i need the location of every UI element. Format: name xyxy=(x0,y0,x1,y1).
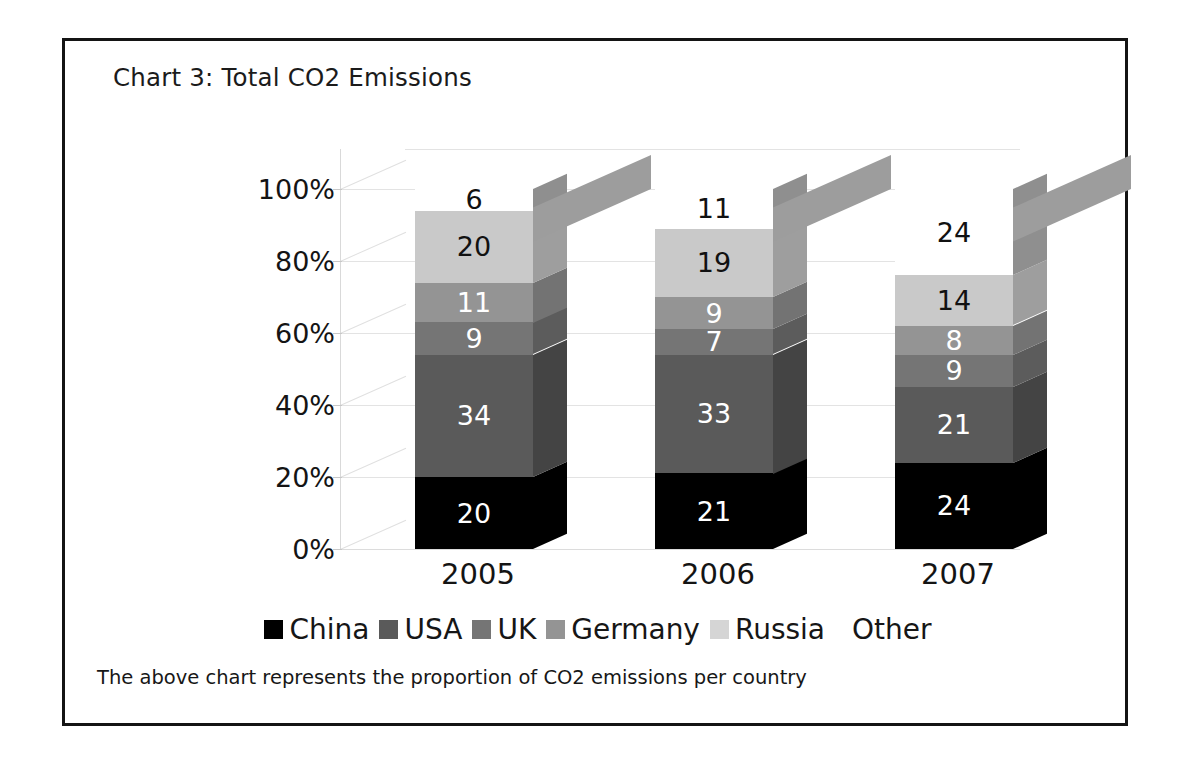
segment-value-label: 11 xyxy=(457,289,491,316)
segment-front-face: 6 xyxy=(415,189,533,211)
segment-front-face: 11 xyxy=(655,189,773,229)
segment-side-face xyxy=(773,329,807,354)
legend-label: USA xyxy=(404,613,462,646)
legend-item-russia[interactable]: Russia xyxy=(710,613,825,646)
segment-2005-china[interactable]: 20 xyxy=(415,477,533,549)
segment-value-label: 20 xyxy=(457,500,491,527)
x-axis-label-2007: 2007 xyxy=(863,557,1053,591)
segment-2007-usa[interactable]: 21 xyxy=(895,387,1013,463)
segment-front-face: 21 xyxy=(895,387,1013,463)
segment-2007-uk[interactable]: 9 xyxy=(895,355,1013,387)
segment-value-label: 8 xyxy=(945,327,962,354)
segment-2006-other[interactable]: 11 xyxy=(655,189,773,229)
segment-value-label: 24 xyxy=(937,492,971,519)
legend-label: UK xyxy=(497,613,536,646)
legend-item-germany[interactable]: Germany xyxy=(546,613,700,646)
segment-value-label: 21 xyxy=(937,411,971,438)
segment-2006-uk[interactable]: 7 xyxy=(655,329,773,354)
legend-item-china[interactable]: China xyxy=(264,613,369,646)
segment-front-face: 20 xyxy=(415,477,533,549)
legend-swatch-germany-icon xyxy=(546,620,565,639)
segment-side-fill xyxy=(773,339,807,473)
segment-side-face xyxy=(773,297,807,329)
segment-value-label: 7 xyxy=(705,328,722,355)
legend-swatch-china-icon xyxy=(264,620,283,639)
y-tickmark-60 xyxy=(333,333,342,334)
segment-front-face: 14 xyxy=(895,275,1013,325)
segment-front-face: 9 xyxy=(895,355,1013,387)
segment-side-fill xyxy=(533,339,567,477)
segment-side-fill xyxy=(1013,447,1047,549)
screenshot-page: Chart 3: Total CO2 Emissions 0%20%40%60%… xyxy=(0,0,1188,764)
segment-2006-china[interactable]: 21 xyxy=(655,473,773,549)
segment-2007-other[interactable]: 24 xyxy=(895,189,1013,275)
segment-side-face xyxy=(533,477,567,549)
column-top-cap-2005 xyxy=(533,155,567,189)
y-tickmark-20 xyxy=(333,477,342,478)
segment-value-label: 9 xyxy=(705,300,722,327)
segment-front-face: 11 xyxy=(415,283,533,323)
segment-front-face: 7 xyxy=(655,329,773,354)
segment-2005-uk[interactable]: 9 xyxy=(415,322,533,354)
segment-value-label: 11 xyxy=(697,195,731,222)
segment-side-face xyxy=(533,355,567,477)
chart-frame: Chart 3: Total CO2 Emissions 0%20%40%60%… xyxy=(62,38,1128,726)
segment-2005-other[interactable]: 6 xyxy=(415,189,533,211)
segment-front-face: 20 xyxy=(415,211,533,283)
y-axis-label-20: 20% xyxy=(227,462,335,493)
column-top-cap-fill xyxy=(1013,155,1131,242)
segment-front-face: 33 xyxy=(655,355,773,474)
segment-front-face: 34 xyxy=(415,355,533,477)
legend-label: China xyxy=(289,613,369,646)
legend-item-uk[interactable]: UK xyxy=(472,613,536,646)
legend-swatch-other-icon xyxy=(835,620,846,639)
segment-side-face xyxy=(1013,463,1047,549)
segment-side-face xyxy=(1013,326,1047,355)
legend-swatch-usa-icon xyxy=(379,620,398,639)
column-top-cap-2007 xyxy=(1013,155,1047,189)
legend-item-other[interactable]: Other xyxy=(835,613,932,646)
segment-front-face: 24 xyxy=(895,189,1013,275)
y-axis-label-0: 0% xyxy=(227,534,335,565)
y-tickmark-40 xyxy=(333,405,342,406)
segment-side-face xyxy=(533,283,567,323)
segment-value-label: 19 xyxy=(697,249,731,276)
y-axis-line xyxy=(340,149,341,549)
segment-value-label: 24 xyxy=(937,219,971,246)
segment-front-face: 8 xyxy=(895,326,1013,355)
segment-2007-russia[interactable]: 14 xyxy=(895,275,1013,325)
segment-side-face xyxy=(1013,355,1047,387)
segment-side-face xyxy=(1013,275,1047,325)
legend-item-usa[interactable]: USA xyxy=(379,613,462,646)
segment-2005-germany[interactable]: 11 xyxy=(415,283,533,323)
segment-front-face: 24 xyxy=(895,463,1013,549)
segment-value-label: 14 xyxy=(937,287,971,314)
y-tickmark-0 xyxy=(333,549,342,550)
segment-2005-russia[interactable]: 20 xyxy=(415,211,533,283)
y-axis-label-40: 40% xyxy=(227,390,335,421)
segment-value-label: 6 xyxy=(465,186,482,213)
segment-2006-germany[interactable]: 9 xyxy=(655,297,773,329)
segment-value-label: 9 xyxy=(945,357,962,384)
segment-2007-china[interactable]: 24 xyxy=(895,463,1013,549)
segment-2005-usa[interactable]: 34 xyxy=(415,355,533,477)
segment-value-label: 21 xyxy=(697,498,731,525)
segment-2006-russia[interactable]: 19 xyxy=(655,229,773,297)
segment-value-label: 33 xyxy=(697,400,731,427)
segment-value-label: 34 xyxy=(457,402,491,429)
column-top-cap-2006 xyxy=(773,155,807,189)
segment-2007-germany[interactable]: 8 xyxy=(895,326,1013,355)
segment-2006-usa[interactable]: 33 xyxy=(655,355,773,474)
legend-swatch-uk-icon xyxy=(472,620,491,639)
y-axis-label-60: 60% xyxy=(227,318,335,349)
segment-side-face xyxy=(773,473,807,549)
segment-front-face: 21 xyxy=(655,473,773,549)
legend-label: Russia xyxy=(735,613,825,646)
segment-front-face: 9 xyxy=(655,297,773,329)
y-axis-label-100: 100% xyxy=(227,174,335,205)
chart-legend: ChinaUSAUKGermanyRussiaOther xyxy=(65,613,1131,646)
legend-label: Other xyxy=(852,613,932,646)
y-tickmark-80 xyxy=(333,261,342,262)
chart-caption: The above chart represents the proportio… xyxy=(97,666,807,689)
segment-front-face: 9 xyxy=(415,322,533,354)
